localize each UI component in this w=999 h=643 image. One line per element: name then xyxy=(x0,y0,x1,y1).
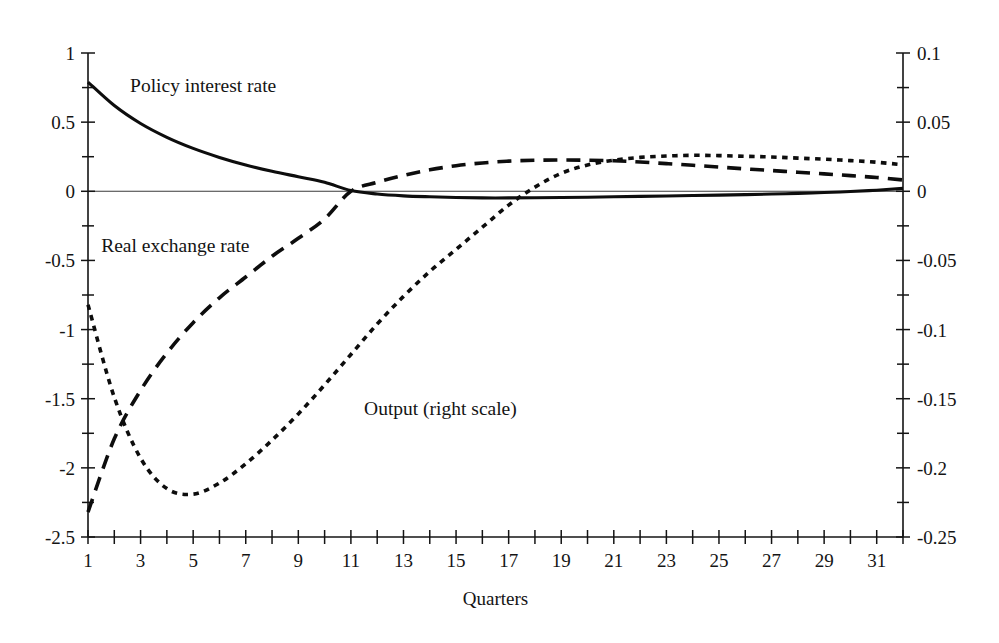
x-axis-tick-label: 29 xyxy=(815,550,834,571)
series-label-output-right-scale: Output (right scale) xyxy=(364,398,517,420)
x-axis-tick-label: 17 xyxy=(499,550,518,571)
series-label-policy-interest-rate: Policy interest rate xyxy=(130,75,276,96)
right-axis-tick-label: -0.2 xyxy=(917,458,947,479)
series-line-real-exchange-rate xyxy=(88,160,903,512)
x-axis-tick-label: 15 xyxy=(447,550,466,571)
x-axis-tick-label: 13 xyxy=(394,550,413,571)
right-axis-tick-label: 0.1 xyxy=(917,43,941,64)
chart-canvas: 10.50-0.5-1-1.5-2-2.50.10.050-0.05-0.1-0… xyxy=(0,0,999,643)
series-line-output-right-scale xyxy=(88,155,903,494)
x-axis-tick-label: 21 xyxy=(604,550,623,571)
right-axis-tick-label: -0.15 xyxy=(917,389,957,410)
x-axis-tick-label: 1 xyxy=(83,550,93,571)
series-line-policy-interest-rate xyxy=(88,82,903,198)
x-axis-tick-label: 11 xyxy=(342,550,360,571)
left-axis-tick-label: -2.5 xyxy=(45,527,75,548)
left-axis-tick-label: 1 xyxy=(66,43,76,64)
x-axis-tick-label: 27 xyxy=(762,550,781,571)
series-label-real-exchange-rate: Real exchange rate xyxy=(101,235,249,256)
left-axis-tick-label: -0.5 xyxy=(45,250,75,271)
left-axis-tick-label: 0 xyxy=(66,181,76,202)
x-axis-title: Quarters xyxy=(463,588,528,609)
x-axis-tick-label: 3 xyxy=(136,550,146,571)
x-axis-tick-label: 5 xyxy=(188,550,198,571)
left-axis-tick-label: -1 xyxy=(59,320,75,341)
left-axis-tick-label: -2 xyxy=(59,458,75,479)
right-axis-tick-label: 0.05 xyxy=(917,112,950,133)
x-axis-tick-label: 19 xyxy=(552,550,571,571)
right-axis-tick-label: -0.25 xyxy=(917,527,957,548)
chart-figure: 10.50-0.5-1-1.5-2-2.50.10.050-0.05-0.1-0… xyxy=(0,0,999,643)
right-axis-tick-label: -0.1 xyxy=(917,320,947,341)
right-axis-tick-label: 0 xyxy=(917,181,927,202)
x-axis-tick-label: 7 xyxy=(241,550,251,571)
x-axis-tick-label: 25 xyxy=(709,550,728,571)
x-axis-tick-label: 9 xyxy=(294,550,304,571)
left-axis-tick-label: 0.5 xyxy=(51,112,75,133)
x-axis-tick-label: 23 xyxy=(657,550,676,571)
left-axis-tick-label: -1.5 xyxy=(45,389,75,410)
x-axis-tick-label: 31 xyxy=(867,550,886,571)
right-axis-tick-label: -0.05 xyxy=(917,250,957,271)
